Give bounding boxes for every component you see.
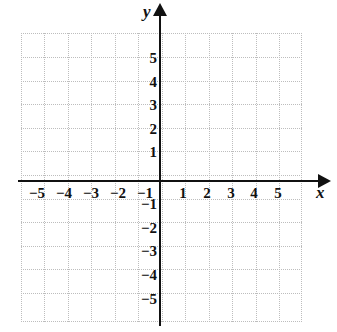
y-tick-label-neg2: −2 (141, 221, 157, 236)
grid-horizontal-lines (21, 33, 302, 322)
y-tick-label-4: 4 (150, 75, 158, 90)
y-tick-label-neg5: −5 (141, 292, 157, 307)
y-tick-label-neg3: −3 (141, 244, 157, 259)
x-tick-label-neg3: −3 (83, 186, 99, 201)
coordinate-plane-figure: x y −5 −4 −3 −2 −1 1 2 3 4 5 5 4 3 2 1 −… (0, 0, 337, 332)
x-tick-label-neg5: −5 (29, 186, 45, 201)
y-tick-label-2: 2 (150, 122, 158, 137)
x-tick-label-2: 2 (203, 186, 211, 201)
x-tick-label-neg4: −4 (56, 186, 72, 201)
y-axis-arrow-icon (153, 3, 167, 16)
y-tick-label-neg4: −4 (141, 268, 157, 283)
x-tick-label-4: 4 (250, 186, 258, 201)
y-tick-label-1: 1 (150, 145, 158, 160)
x-axis-label: x (316, 184, 325, 201)
y-axis-label: y (143, 3, 151, 20)
x-axis-line (18, 180, 324, 182)
y-tick-label-3: 3 (150, 98, 158, 113)
y-tick-label-5: 5 (150, 51, 158, 66)
x-tick-label-5: 5 (274, 186, 282, 201)
x-tick-label-1: 1 (179, 186, 187, 201)
y-tick-label-neg1: −1 (141, 197, 157, 212)
x-tick-label-neg2: −2 (110, 186, 126, 201)
x-tick-label-3: 3 (227, 186, 235, 201)
y-axis-line (159, 12, 161, 326)
